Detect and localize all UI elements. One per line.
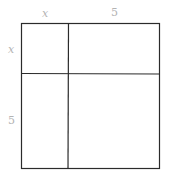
left-label-5: 5 xyxy=(8,115,15,126)
area-model-diagram xyxy=(0,0,169,178)
left-label-x: x xyxy=(8,44,14,55)
top-label-x: x xyxy=(42,8,48,19)
horizontal-divider xyxy=(22,74,160,75)
top-label-5: 5 xyxy=(111,7,118,18)
outer-square xyxy=(22,24,160,169)
vertical-divider xyxy=(68,24,69,169)
